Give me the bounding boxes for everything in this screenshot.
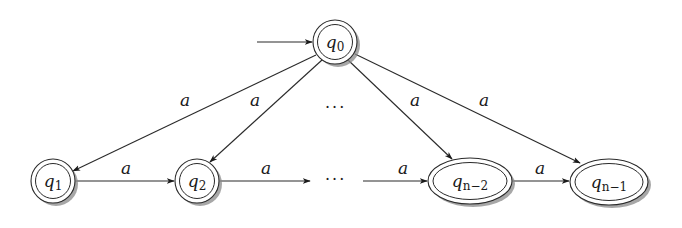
edge-label-q2-dots: a xyxy=(261,158,271,178)
edge-q0-q1 xyxy=(73,55,316,171)
state-q2: q2 xyxy=(175,159,222,206)
state-qn-2-base: q xyxy=(452,171,463,191)
edge-label-q0-q1: a xyxy=(180,90,190,110)
state-q1-sub: 1 xyxy=(55,179,63,193)
state-q2-base: q xyxy=(188,171,199,191)
edge-q0-qn1 xyxy=(355,54,580,163)
state-qn-2-sub: n−2 xyxy=(463,179,488,193)
state-q0-base: q xyxy=(326,32,337,52)
edge-label-qn2-qn1: a xyxy=(535,158,545,178)
state-qn-1: qn−1 xyxy=(570,159,651,208)
state-qn-1-base: q xyxy=(591,172,602,192)
edge-label-dots-qn2: a xyxy=(398,158,408,178)
state-q0-sub: 0 xyxy=(337,40,345,54)
state-q2-sub: 2 xyxy=(199,179,207,193)
ellipsis-bottom: ··· xyxy=(325,170,346,189)
state-q1: q1 xyxy=(31,159,78,206)
ellipsis-top: ··· xyxy=(325,98,346,117)
edge-label-q0-qn1: a xyxy=(479,90,489,110)
state-q1-base: q xyxy=(44,171,55,191)
edge-q0-qn2 xyxy=(348,60,452,159)
state-q0: q0 xyxy=(313,20,360,67)
edge-label-q1-q2: a xyxy=(121,158,131,178)
edge-q0-q2 xyxy=(210,60,322,162)
edge-label-q0-qn2: a xyxy=(410,90,420,110)
state-qn-1-sub: n−1 xyxy=(602,180,627,194)
nfa-diagram: a a a a a a a a ··· ··· q0 q1 q2 xyxy=(0,0,682,228)
state-qn-2: qn−2 xyxy=(428,158,515,207)
edge-label-q0-q2: a xyxy=(250,90,260,110)
